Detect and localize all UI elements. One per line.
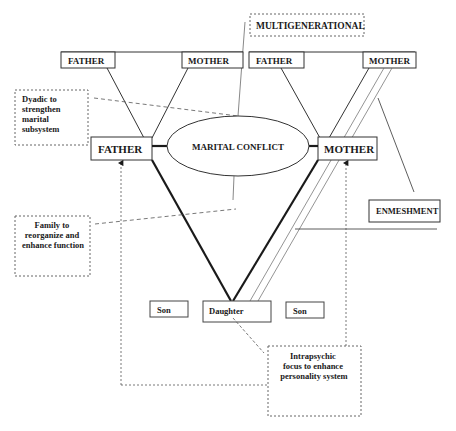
family-connector: [95, 209, 236, 224]
gp-right-father-label: FATHER: [256, 56, 293, 66]
daughter-label: Daughter: [209, 306, 244, 316]
father-daughter-line: [152, 160, 231, 301]
gp-left-mother-box: MOTHER: [182, 52, 243, 68]
dyadic-connector: [94, 98, 238, 116]
son-right-box: Son: [286, 302, 324, 318]
multigenerational-label: MULTIGENERATIONAL: [256, 21, 365, 31]
gp-left-father-box: FATHER: [61, 52, 115, 68]
mother-box: MOTHER: [318, 137, 377, 160]
son-left-box: Son: [150, 301, 188, 317]
gp-right-father-box: FATHER: [249, 52, 304, 68]
conflict-down-line: [233, 176, 234, 200]
gp-right-mother-line: [329, 68, 369, 138]
intrapsychic-note-text: Intrapsychic focus to enhance personalit…: [280, 351, 347, 381]
mother-daughter-line: [233, 160, 318, 301]
gp-left-father-label: FATHER: [68, 56, 105, 66]
mother-label: MOTHER: [324, 143, 375, 155]
family-therapy-diagram: MULTIGENERATIONAL FATHER MOTHER FATHER M…: [0, 0, 456, 431]
multigenerational-box: MULTIGENERATIONAL: [250, 14, 365, 36]
father-label: FATHER: [98, 143, 143, 155]
enmeshment-line-1: [250, 68, 384, 301]
father-box: FATHER: [91, 137, 152, 160]
gp-right-mother-label: MOTHER: [369, 56, 411, 66]
marital-conflict-label: MARITAL CONFLICT: [192, 142, 284, 152]
enmeshment-line-2: [258, 68, 392, 301]
marital-conflict-ellipse: MARITAL CONFLICT: [167, 116, 309, 176]
intrapsychic-note-box: Intrapsychic focus to enhance personalit…: [268, 346, 361, 416]
gp-left-father-line: [107, 68, 144, 138]
gp-right-mother-box: MOTHER: [363, 52, 416, 68]
daughter-intrapsychic-connector: [233, 318, 264, 353]
son-left-label: Son: [157, 305, 171, 315]
gp-left-mother-label: MOTHER: [188, 56, 230, 66]
family-note-box: Family to reorganize and enhance functio…: [15, 216, 90, 276]
enmeshment-pointer-line: [378, 98, 414, 192]
daughter-box: Daughter: [203, 301, 271, 322]
enmeshment-box: ENMESHMENT: [369, 200, 440, 222]
son-right-label: Son: [293, 306, 307, 316]
enmeshment-label: ENMESHMENT: [376, 206, 439, 216]
dyadic-note-box: Dyadic to strengthen marital subsystem: [15, 90, 88, 145]
multigenerational-connector: [238, 22, 245, 116]
